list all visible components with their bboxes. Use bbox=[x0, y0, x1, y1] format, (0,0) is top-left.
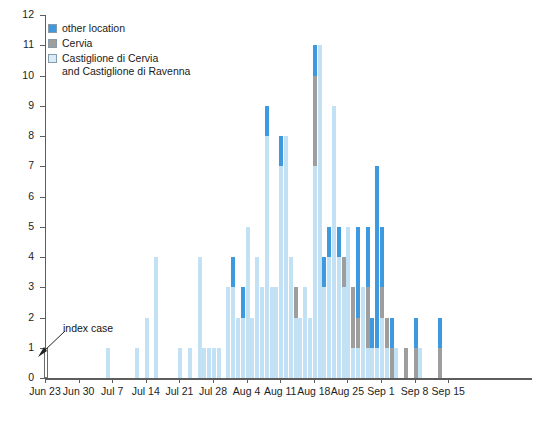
y-tick-label-12: 12 bbox=[8, 9, 34, 20]
bar-day-56 bbox=[313, 45, 317, 378]
legend-label-1: Cervia bbox=[62, 37, 92, 50]
bar-day-47 bbox=[270, 287, 274, 378]
index-case-annotation: index case bbox=[63, 322, 113, 334]
y-tick-label-5: 5 bbox=[8, 221, 34, 232]
bar-segment-cervia bbox=[294, 287, 298, 317]
y-tick-label-6: 6 bbox=[8, 191, 34, 202]
bar-day-55 bbox=[308, 318, 312, 379]
bar-day-62 bbox=[342, 257, 346, 378]
x-tick-3 bbox=[146, 378, 147, 383]
bar-day-44 bbox=[255, 257, 259, 378]
x-tick-5 bbox=[213, 378, 214, 383]
bar-segment-castiglione bbox=[241, 318, 245, 379]
bar-segment-cervia bbox=[438, 348, 442, 378]
bar-segment-cervia bbox=[342, 257, 346, 287]
legend-swatch-icon-1 bbox=[48, 39, 57, 48]
bar-segment-castiglione bbox=[246, 227, 250, 378]
bar-day-51 bbox=[289, 257, 293, 378]
bar-day-32 bbox=[198, 257, 202, 378]
bar-segment-cervia bbox=[390, 348, 394, 378]
bar-day-50 bbox=[284, 136, 288, 378]
y-tick-label-8: 8 bbox=[8, 130, 34, 141]
bar-day-58 bbox=[322, 257, 326, 378]
y-tick-label-3: 3 bbox=[8, 281, 34, 292]
legend-label-2: Castiglione di Cervia and Castiglione di… bbox=[62, 52, 190, 79]
bar-day-45 bbox=[260, 287, 264, 378]
bar-segment-castiglione bbox=[356, 348, 360, 378]
x-tick-4 bbox=[179, 378, 180, 383]
bar-day-66 bbox=[361, 287, 365, 378]
bar-segment-other-location bbox=[438, 318, 442, 348]
bar-day-23 bbox=[154, 257, 158, 378]
bar-segment-castiglione bbox=[226, 287, 230, 378]
x-tick-10 bbox=[381, 378, 382, 383]
bar-day-36 bbox=[217, 348, 221, 378]
legend: other locationCerviaCastiglione di Cervi… bbox=[48, 22, 190, 80]
y-tick-label-11: 11 bbox=[8, 39, 34, 50]
bar-segment-castiglione bbox=[212, 348, 216, 378]
bar-segment-other-location bbox=[375, 166, 379, 348]
bar-day-52 bbox=[294, 287, 298, 378]
bar-segment-other-location bbox=[265, 106, 269, 136]
y-tick-label-4: 4 bbox=[8, 251, 34, 262]
legend-item-0: other location bbox=[48, 22, 190, 35]
bar-segment-castiglione bbox=[279, 166, 283, 378]
bar-segment-other-location bbox=[390, 318, 394, 348]
bar-day-57 bbox=[318, 45, 322, 378]
legend-item-2: Castiglione di Cervia and Castiglione di… bbox=[48, 52, 190, 79]
bar-segment-castiglione bbox=[231, 287, 235, 378]
bar-day-35 bbox=[212, 348, 216, 378]
bar-segment-cervia bbox=[404, 348, 408, 378]
bar-day-34 bbox=[207, 348, 211, 378]
bar-segment-castiglione bbox=[265, 136, 269, 378]
bar-segment-castiglione bbox=[385, 348, 389, 378]
bar-day-46 bbox=[265, 106, 269, 378]
bar-segment-castiglione bbox=[370, 348, 374, 378]
x-tick-11 bbox=[415, 378, 416, 383]
bar-day-21 bbox=[145, 318, 149, 379]
bar-day-59 bbox=[327, 227, 331, 378]
bar-day-28 bbox=[178, 348, 182, 378]
bar-day-75 bbox=[404, 348, 408, 378]
bar-segment-castiglione bbox=[207, 348, 211, 378]
bar-day-54 bbox=[303, 287, 307, 378]
bar-day-41 bbox=[241, 287, 245, 378]
bar-day-61 bbox=[337, 227, 341, 378]
bar-segment-cervia bbox=[414, 348, 418, 378]
bar-segment-castiglione bbox=[337, 257, 341, 378]
bar-segment-castiglione bbox=[375, 348, 379, 378]
x-tick-9 bbox=[347, 378, 348, 383]
bar-segment-other-location bbox=[279, 136, 283, 166]
bar-day-67 bbox=[366, 227, 370, 378]
bar-day-40 bbox=[236, 318, 240, 379]
bar-day-39 bbox=[231, 257, 235, 378]
bar-segment-castiglione bbox=[294, 318, 298, 379]
bar-segment-other-location bbox=[356, 227, 360, 318]
bar-day-38 bbox=[226, 287, 230, 378]
bar-segment-castiglione bbox=[332, 106, 336, 378]
x-tick-8 bbox=[314, 378, 315, 383]
bar-segment-castiglione bbox=[289, 257, 293, 378]
x-axis-line bbox=[45, 378, 532, 380]
bar-segment-castiglione bbox=[298, 318, 302, 379]
legend-swatch-icon-0 bbox=[48, 24, 57, 33]
bar-segment-castiglione bbox=[188, 348, 192, 378]
bar-segment-castiglione bbox=[250, 318, 254, 379]
bar-segment-castiglione bbox=[274, 287, 278, 378]
bar-segment-other-location bbox=[380, 227, 384, 288]
bar-segment-castiglione bbox=[366, 348, 370, 378]
bar-segment-cervia bbox=[351, 287, 355, 348]
bar-segment-castiglione bbox=[351, 348, 355, 378]
bar-day-43 bbox=[250, 318, 254, 379]
bar-segment-castiglione bbox=[418, 348, 422, 378]
bar-day-70 bbox=[380, 227, 384, 378]
bar-segment-other-location bbox=[231, 257, 235, 287]
x-tick-2 bbox=[112, 378, 113, 383]
bar-day-48 bbox=[274, 287, 278, 378]
bar-day-77 bbox=[414, 318, 418, 379]
index-case-arrow-icon bbox=[36, 330, 66, 358]
bar-segment-other-location bbox=[327, 227, 331, 257]
bar-segment-castiglione bbox=[135, 348, 139, 378]
bar-day-53 bbox=[298, 318, 302, 379]
bar-segment-cervia bbox=[356, 318, 360, 348]
